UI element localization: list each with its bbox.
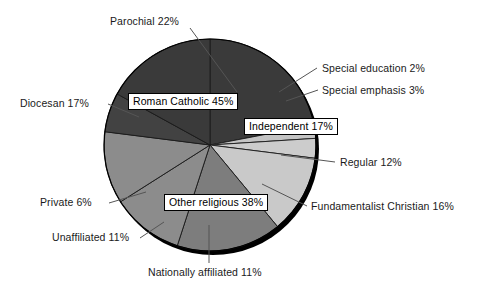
label-special-education: Special education 2% [322,62,425,74]
pie-chart-figure: Parochial 22% Diocesan 17% Private 6% Un… [0,0,487,295]
label-parochial: Parochial 22% [110,15,179,27]
group-label-roman-catholic: Roman Catholic 45% [128,93,238,110]
group-label-independent: Independent 17% [244,118,338,135]
label-fundamentalist-christian: Fundamentalist Christian 16% [311,200,454,212]
label-private: Private 6% [40,196,92,208]
label-unaffiliated: Unaffiliated 11% [52,231,129,243]
label-special-emphasis: Special emphasis 3% [322,84,424,96]
group-label-other-religious: Other religious 38% [164,194,268,211]
label-nationally-affiliated: Nationally affiliated 11% [148,266,262,278]
label-regular: Regular 12% [340,156,402,168]
pie-chart-svg [0,0,487,295]
label-diocesan: Diocesan 17% [20,97,89,109]
pie-slices [104,39,316,251]
